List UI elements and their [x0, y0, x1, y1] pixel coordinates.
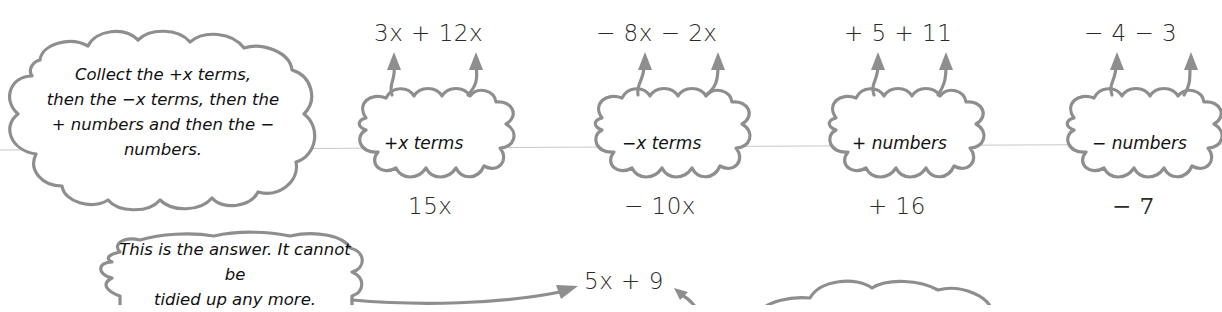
- terms-plus-numbers: + 5 + 11: [844, 20, 952, 46]
- group-cloud-plus-numbers: [829, 52, 984, 177]
- final-answer: 5x + 9: [584, 268, 664, 294]
- arrowhead-icon: [711, 52, 725, 70]
- group-cloud-minus-numbers: [1067, 52, 1222, 177]
- result-minus-x: − 10x: [624, 193, 696, 219]
- arrowhead-icon: [871, 52, 885, 70]
- label-plus-numbers: + numbers: [852, 133, 947, 153]
- arrowhead-icon: [1184, 52, 1198, 70]
- arrowhead-icon: [387, 52, 401, 70]
- arrowhead-icon: [1110, 52, 1124, 70]
- answer-note-line: This is the answer. It cannot be: [110, 237, 360, 287]
- instruction-line: + numbers and then the −: [18, 112, 308, 137]
- terms-minus-x: − 8x − 2x: [596, 20, 717, 46]
- result-minus-numbers: − 7: [1112, 193, 1155, 219]
- arrowhead-icon: [469, 52, 483, 70]
- label-plus-x: +x terms: [384, 133, 463, 153]
- instruction-line: numbers.: [18, 137, 308, 162]
- result-plus-numbers: + 16: [868, 193, 926, 219]
- arrowhead-icon: [556, 285, 578, 299]
- instruction-line: Collect the +x terms,: [18, 62, 308, 87]
- arrowhead-icon: [939, 52, 953, 70]
- group-cloud-plus-x: [359, 52, 514, 177]
- arrow-icon: [352, 292, 560, 303]
- result-plus-x: 15x: [408, 193, 452, 219]
- instruction-line: then the −x terms, then the: [18, 87, 308, 112]
- terms-minus-numbers: − 4 − 3: [1084, 20, 1177, 46]
- label-minus-numbers: − numbers: [1092, 133, 1187, 153]
- instruction-text: Collect the +x terms, then the −x terms,…: [18, 62, 308, 162]
- arrowhead-icon: [638, 52, 652, 70]
- answer-note-text: This is the answer. It cannot be tidied …: [110, 237, 360, 312]
- partial-cloud-icon: [760, 281, 992, 305]
- group-cloud-minus-x: [595, 52, 750, 177]
- answer-note-line: tidied up any more.: [110, 287, 360, 312]
- label-minus-x: −x terms: [622, 133, 701, 153]
- terms-plus-x: 3x + 12x: [374, 20, 483, 46]
